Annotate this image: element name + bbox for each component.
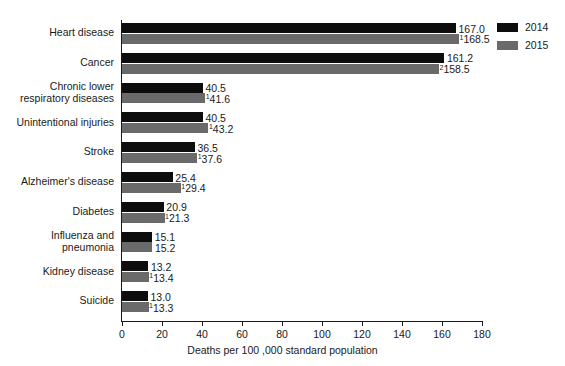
x-tick: [242, 321, 243, 326]
bar-value-label: 137.6: [198, 154, 222, 164]
bar-2015[interactable]: [122, 272, 149, 282]
x-tick: [482, 321, 483, 326]
x-axis-line: [122, 321, 483, 322]
bar-value-label: 36.5: [198, 143, 218, 153]
x-tick: [402, 321, 403, 326]
bar-value-label: 161.2: [447, 53, 473, 63]
category-label: Diabetes: [8, 206, 114, 218]
bar-value-label: 40.5: [206, 113, 226, 123]
x-tick-label: 20: [142, 328, 182, 340]
bar-2014[interactable]: [122, 83, 203, 93]
bar-2014[interactable]: [122, 232, 152, 242]
bar-2014[interactable]: [122, 202, 164, 212]
legend-swatch-2015: [497, 41, 518, 50]
bar-value-label: 15.2: [155, 243, 175, 253]
bar-2015[interactable]: [122, 242, 152, 252]
bar-value-label: 2158.5: [440, 64, 470, 74]
footnote-marker: 1: [165, 213, 169, 220]
category-label: Unintentional injuries: [8, 117, 114, 129]
x-tick-label: 0: [102, 328, 142, 340]
category-label-line: pneumonia: [8, 242, 114, 254]
bar-value-label: 113.4: [149, 273, 173, 283]
category-label: Chronic lowerrespiratory diseases: [8, 81, 114, 104]
bar-2014[interactable]: [122, 172, 173, 182]
category-label: Influenza andpneumonia: [8, 230, 114, 253]
footnote-marker: 1: [206, 93, 210, 100]
x-tick-label: 180: [462, 328, 502, 340]
bar-chart: 020406080100120140160180 Heart disease16…: [0, 0, 565, 366]
bar-value-label: 129.4: [181, 183, 205, 193]
bar-value-label: 20.9: [166, 202, 186, 212]
category-label: Cancer: [8, 57, 114, 69]
footnote-marker: 1: [198, 153, 202, 160]
bar-value-label: 143.2: [209, 124, 233, 134]
legend-item-2014[interactable]: 2014: [497, 20, 548, 35]
category-label-line: Alzheimer's disease: [8, 176, 114, 188]
bar-value-label: 141.6: [206, 94, 230, 104]
bar-value-label: 167.0: [459, 24, 485, 34]
legend-item-2015[interactable]: 2015: [497, 38, 548, 53]
category-label-line: Unintentional injuries: [8, 117, 114, 129]
bar-value-label: 13.0: [151, 292, 171, 302]
bar-value-label: 40.5: [206, 83, 226, 93]
bar-2014[interactable]: [122, 23, 456, 33]
x-tick-label: 100: [302, 328, 342, 340]
bar-2015[interactable]: [122, 153, 197, 163]
x-tick-label: 160: [422, 328, 462, 340]
bar-2015[interactable]: [122, 183, 181, 193]
bar-2015[interactable]: [122, 302, 149, 312]
x-tick: [122, 321, 123, 326]
x-tick: [202, 321, 203, 326]
x-tick-label: 60: [222, 328, 262, 340]
legend-label-2014: 2014: [525, 22, 548, 33]
bar-2015[interactable]: [122, 213, 165, 223]
category-label: Kidney disease: [8, 266, 114, 278]
x-tick-label: 40: [182, 328, 222, 340]
category-label-line: Kidney disease: [8, 266, 114, 278]
x-tick: [282, 321, 283, 326]
category-label-line: Suicide: [8, 295, 114, 307]
category-label: Suicide: [8, 295, 114, 307]
x-axis-title: Deaths per 100 ,000 standard population: [0, 344, 565, 356]
bar-2014[interactable]: [122, 261, 148, 271]
legend: 2014 2015: [497, 20, 548, 56]
footnote-marker: 1: [149, 272, 153, 279]
category-label-line: Stroke: [8, 146, 114, 158]
bar-value-label: 121.3: [165, 213, 189, 223]
x-tick: [362, 321, 363, 326]
bar-2014[interactable]: [122, 112, 203, 122]
legend-swatch-2014: [497, 23, 518, 32]
bar-value-label: 25.4: [175, 173, 195, 183]
bar-2015[interactable]: [122, 93, 205, 103]
bar-2014[interactable]: [122, 53, 444, 63]
category-label-line: Influenza and: [8, 230, 114, 242]
legend-label-2015: 2015: [525, 40, 548, 51]
category-label-line: Heart disease: [8, 27, 114, 39]
bar-2015[interactable]: [122, 34, 459, 44]
category-label: Heart disease: [8, 27, 114, 39]
category-label-line: respiratory diseases: [8, 93, 114, 105]
footnote-marker: 1: [209, 123, 213, 130]
bar-value-label: 1168.5: [460, 34, 490, 44]
bar-value-label: 13.2: [151, 262, 171, 272]
footnote-marker: 1: [181, 183, 185, 190]
bar-2015[interactable]: [122, 64, 439, 74]
x-tick: [322, 321, 323, 326]
category-label: Stroke: [8, 146, 114, 158]
bar-2015[interactable]: [122, 123, 208, 133]
footnote-marker: 1: [460, 34, 464, 41]
bar-2014[interactable]: [122, 142, 195, 152]
bar-value-label: 113.3: [149, 303, 173, 313]
category-label-line: Diabetes: [8, 206, 114, 218]
category-label-line: Chronic lower: [8, 81, 114, 93]
bar-value-label: 15.1: [155, 232, 175, 242]
category-label-line: Cancer: [8, 57, 114, 69]
x-tick: [442, 321, 443, 326]
bar-2014[interactable]: [122, 291, 148, 301]
footnote-marker: 1: [149, 302, 153, 309]
x-tick: [162, 321, 163, 326]
x-tick-label: 80: [262, 328, 302, 340]
x-tick-label: 140: [382, 328, 422, 340]
category-label: Alzheimer's disease: [8, 176, 114, 188]
footnote-marker: 2: [440, 64, 444, 71]
